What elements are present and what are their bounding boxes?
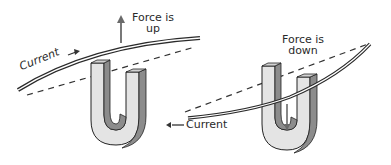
- left-magnet: [91, 60, 146, 148]
- right-current-label: Current: [186, 119, 227, 130]
- right-force-label-line2: down: [278, 45, 328, 56]
- current-right-arrow-icon: [68, 49, 80, 55]
- right-panel: [166, 44, 370, 153]
- left-force-label: Force is up: [128, 12, 178, 34]
- force-up-arrow-icon: [117, 15, 125, 43]
- right-force-label: Force is down: [278, 34, 328, 56]
- right-magnet: [262, 63, 317, 153]
- current-left-arrow-icon: [166, 122, 184, 128]
- left-force-label-line2: up: [128, 23, 178, 34]
- magnetic-force-diagram: [0, 0, 391, 165]
- left-panel: [18, 15, 200, 148]
